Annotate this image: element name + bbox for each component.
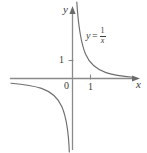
y-axis-arrowhead xyxy=(69,6,75,14)
x-tick-label-1: 1 xyxy=(88,82,93,92)
function-graph-figure: y x 0 1 1 y = 1 x xyxy=(0,0,147,153)
equation-lhs: y xyxy=(86,31,90,41)
equation-equals-sign: = xyxy=(92,31,98,41)
fraction-denominator: x xyxy=(100,37,106,46)
hyperbola-branch-negative xyxy=(11,83,69,152)
y-tick-label-1: 1 xyxy=(59,55,64,65)
fraction-numerator: 1 xyxy=(100,27,106,36)
equation-fraction: 1 x xyxy=(100,27,106,45)
origin-label: 0 xyxy=(64,81,69,91)
plot-canvas xyxy=(0,0,147,153)
x-axis-label: x xyxy=(136,79,141,90)
equation-annotation: y = 1 x xyxy=(86,27,106,45)
y-axis-label: y xyxy=(63,4,68,15)
